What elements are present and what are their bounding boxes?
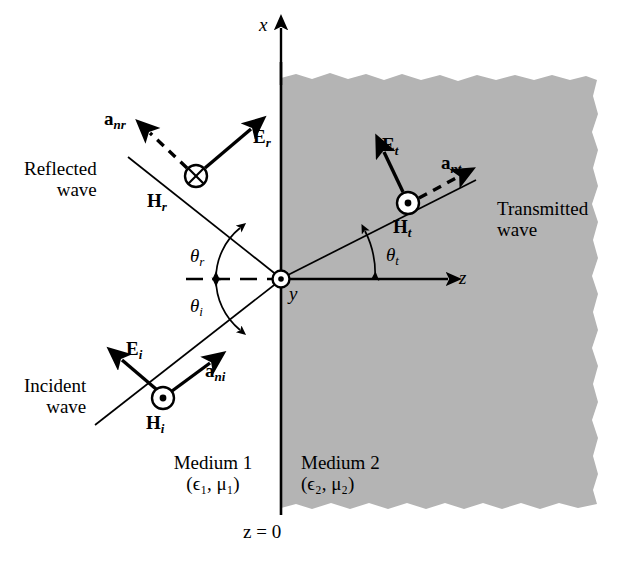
E-r-label-sub: r xyxy=(266,135,271,150)
medium-1-name: Medium 1 xyxy=(174,452,253,473)
E-r-label: Er xyxy=(253,126,271,147)
H-t-label-base: H xyxy=(393,216,408,237)
H-r-label-base: H xyxy=(147,190,162,211)
reflected-wave-caption: Reflected wave xyxy=(24,158,97,201)
transmitted-wave-caption-line2: wave xyxy=(497,219,537,240)
E-t-label-base: E xyxy=(382,134,395,155)
medium-2-shaded-region xyxy=(275,60,605,520)
E-t-label-sub: t xyxy=(395,143,399,158)
medium-2-label: Medium 2 (ϵ₂, μ₂) xyxy=(301,452,431,495)
a-ni-label-base: a xyxy=(205,360,215,381)
a-ni-label-sub: ni xyxy=(215,369,226,384)
E-i-label: Ei xyxy=(126,338,142,359)
theta-i-label: θi xyxy=(190,295,203,316)
H-r-label: Hr xyxy=(147,190,167,211)
medium-1-label: Medium 1 (ϵ₁, μ₁) xyxy=(148,452,278,495)
H-i-label-base: H xyxy=(146,412,161,433)
z-axis-label: z xyxy=(459,267,466,288)
theta-i-label-sub: i xyxy=(199,304,203,319)
H-r-label-sub: r xyxy=(162,199,167,214)
H-t-label: Ht xyxy=(393,216,411,237)
y-axis-label: y xyxy=(289,283,297,304)
theta-t-label: θt xyxy=(386,244,399,265)
reflected-wave-caption-line2: wave xyxy=(24,179,97,200)
theta-i-label-base: θ xyxy=(190,295,199,316)
incident-wave-caption-line2: wave xyxy=(24,396,86,417)
medium-2-params: (ϵ₂, μ₂) xyxy=(301,473,431,494)
H-i-label-sub: i xyxy=(161,421,165,436)
E-r-vector-arrow xyxy=(205,129,251,168)
theta-r-label-sub: r xyxy=(199,254,204,269)
theta-r-label-base: θ xyxy=(190,245,199,266)
origin-dot xyxy=(278,276,284,282)
theta-t-label-base: θ xyxy=(386,244,395,265)
a-nr-label: anr xyxy=(104,108,126,129)
boundary-plane-label: z = 0 xyxy=(243,521,281,542)
H-t-label-sub: t xyxy=(408,225,412,240)
H-t-dot xyxy=(405,200,412,207)
E-t-label: Et xyxy=(382,134,398,155)
a-nr-label-sub: nr xyxy=(114,117,126,132)
incident-ray xyxy=(95,282,278,425)
transmitted-wave-caption: Transmitted wave xyxy=(497,198,588,241)
theta-r-label: θr xyxy=(190,245,204,266)
a-nr-label-base: a xyxy=(104,108,114,129)
theta-t-label-sub: t xyxy=(395,253,399,268)
x-axis-label: x xyxy=(259,14,267,35)
H-i-label: Hi xyxy=(146,412,164,433)
transmitted-wave-caption-line1: Transmitted xyxy=(497,198,588,219)
E-r-label-base: E xyxy=(253,126,266,147)
incident-wave-caption-line1: Incident xyxy=(24,375,86,396)
wave-boundary-diagram: x z y Reflected wave anr Er Hr θr Incide… xyxy=(0,0,623,571)
incident-wave-caption: Incident wave xyxy=(24,375,86,418)
a-ni-label: ani xyxy=(205,360,225,381)
E-i-label-sub: i xyxy=(139,347,143,362)
a-nt-label: ant xyxy=(441,152,461,173)
E-i-vector-arrow xyxy=(122,360,156,389)
H-i-dot xyxy=(160,395,167,402)
medium-2-name: Medium 2 xyxy=(301,452,380,473)
a-nt-label-sub: nt xyxy=(451,161,462,176)
reflected-wave-caption-line1: Reflected xyxy=(24,158,97,179)
a-nr-propagation-vector-arrow xyxy=(150,133,187,168)
angle-arc-theta-i xyxy=(216,279,240,330)
E-i-label-base: E xyxy=(126,338,139,359)
a-nt-label-base: a xyxy=(441,152,451,173)
medium-1-params: (ϵ₁, μ₁) xyxy=(148,473,278,494)
